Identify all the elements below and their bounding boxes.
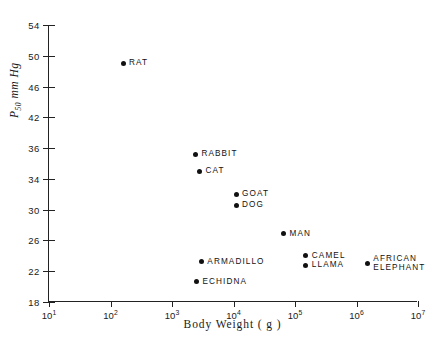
data-point-label: ECHIDNA — [202, 277, 247, 287]
data-point-marker — [194, 279, 199, 284]
x-tick-mark — [357, 301, 358, 307]
y-tick-mark-inner — [49, 271, 55, 272]
x-tick-mark — [172, 301, 173, 307]
data-point-label: CAMEL — [312, 251, 346, 261]
data-point-label: DOG — [242, 200, 264, 210]
y-tick-label: 26 — [28, 235, 40, 246]
plot-area: 54504642363430262218 1011021031041051061… — [48, 25, 417, 302]
y-tick-label: 54 — [28, 20, 40, 31]
y-tick-mark-inner — [49, 87, 55, 88]
y-tick-mark-inner — [49, 25, 55, 26]
y-tick-mark-inner — [49, 179, 55, 180]
y-tick-label: 42 — [28, 112, 40, 123]
data-point-marker — [234, 203, 239, 208]
data-point-marker — [199, 259, 204, 264]
x-tick-mark — [234, 301, 235, 307]
x-axis-title: Body Weight ( g ) — [48, 318, 417, 330]
y-axis-title-symbol: P — [8, 110, 20, 118]
y-tick-label: 46 — [28, 81, 40, 92]
data-point-label: MAN — [289, 229, 311, 239]
y-axis-title-unit: mm Hg — [8, 62, 20, 101]
x-tick-mark — [295, 301, 296, 307]
scatter-plot-figure: P50 mm Hg 54504642363430262218 101102103… — [0, 0, 431, 339]
x-tick-mark — [111, 301, 112, 307]
y-tick-mark-inner — [49, 56, 55, 57]
data-point-label: GOAT — [242, 189, 269, 199]
data-point-marker — [281, 231, 286, 236]
y-axis-title: P50 mm Hg — [8, 94, 20, 118]
data-point-marker — [234, 192, 239, 197]
y-tick-mark-inner — [49, 240, 55, 241]
y-tick-mark-inner — [49, 210, 55, 211]
data-point-marker — [303, 263, 308, 268]
data-point-label: AFRICAN ELEPHANT — [373, 254, 425, 273]
y-tick-label: 18 — [28, 297, 40, 308]
data-point-marker — [365, 261, 370, 266]
y-tick-label: 30 — [28, 204, 40, 215]
y-tick-mark-inner — [49, 148, 55, 149]
y-tick-label: 50 — [28, 50, 40, 61]
y-axis-title-subscript: 50 — [14, 102, 23, 111]
data-point-marker — [121, 61, 126, 66]
x-tick-mark — [49, 301, 50, 307]
data-point-label: RAT — [129, 59, 148, 69]
y-tick-label: 34 — [28, 173, 40, 184]
y-tick-mark-inner — [49, 117, 55, 118]
data-point-label: CAT — [206, 166, 225, 176]
y-tick-label: 22 — [28, 266, 40, 277]
x-tick-mark — [418, 301, 419, 307]
data-point-marker — [197, 169, 202, 174]
data-point-marker — [303, 253, 308, 258]
data-point-label: RABBIT — [201, 149, 237, 159]
data-point-label: LLAMA — [312, 260, 344, 270]
data-point-label: ARMADILLO — [207, 257, 264, 267]
y-tick-label: 36 — [28, 143, 40, 154]
data-point-marker — [193, 152, 198, 157]
